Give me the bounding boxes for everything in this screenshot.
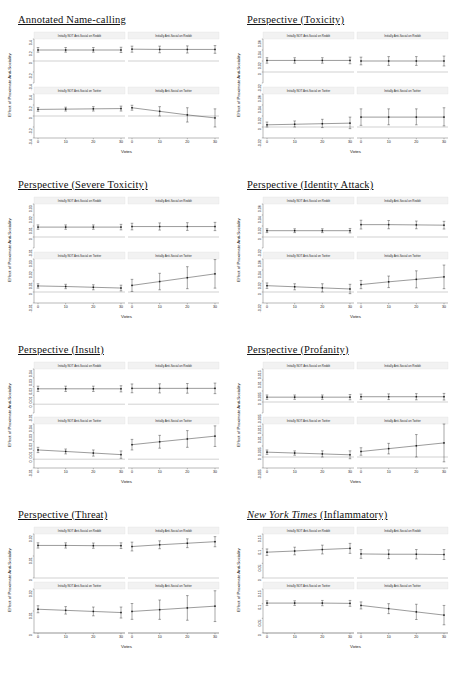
chart-panel: New York Times (Inflammatory)Initially N… [229,509,458,674]
y-axis-label: Effect of Proximate Anti-Sociality [236,383,241,447]
y-axis-label: Effect of Proximate Anti-Sociality [7,53,12,117]
facet-strip-label: Initially Anti-Social on Reddit [155,199,192,203]
x-axis-label: Votes [121,644,133,649]
estimate-point [360,224,362,226]
x-tick-label: 0 [360,140,362,144]
y-tick-label: 0.01 [258,381,262,388]
chart-panel: Perspective (Insult)Initially NOT Anti-S… [0,344,229,509]
estimate-line [361,277,444,285]
facet-strip-label: Initially NOT Anti-Social on Twitter [287,254,330,258]
x-tick-label: 30 [119,140,123,144]
x-tick-label: 30 [442,140,446,144]
chart-panel: Annotated Name-callingInitially NOT Anti… [0,14,229,179]
x-tick-label: 0 [360,305,362,309]
estimate-point [266,230,268,232]
chart-panel: Perspective (Severe Toxicity)Initially N… [0,179,229,344]
facet-strip-label: Initially NOT Anti-Social on Twitter [58,584,101,588]
chart-svg: Initially NOT Anti-Social on Reddit00.05… [233,523,454,651]
x-tick-label: 30 [442,305,446,309]
estimate-point [388,553,390,555]
estimate-point [294,124,296,126]
x-tick-label: 20 [320,140,324,144]
y-tick-label: 0 [29,634,33,636]
estimate-point [131,611,133,613]
estimate-line [267,548,350,552]
x-tick-label: 20 [414,140,418,144]
estimate-point [416,279,418,281]
y-tick-label: 0.01 [258,436,262,443]
estimate-line [38,609,121,612]
x-tick-label: 30 [119,305,123,309]
estimate-point [37,109,39,111]
estimate-point [214,49,216,51]
estimate-point [388,448,390,450]
chart-title: Perspective (Profanity) [247,344,454,355]
facet-strip-label: Initially Anti-Social on Reddit [384,529,421,533]
y-tick-label: 0.04 [258,106,262,113]
chart-svg: Initially NOT Anti-Social on Reddit-0.02… [233,193,454,321]
estimate-point [443,554,445,556]
y-axis-label: Effect of Proximate Anti-Sociality [7,218,12,282]
estimate-point [294,452,296,454]
x-axis-label: Votes [350,149,362,154]
y-axis-label: Effect of Proximate Anti-Sociality [236,218,241,282]
y-tick-label: 0 [258,128,262,130]
estimate-point [349,288,351,290]
y-tick-label: 0.015 [258,370,262,379]
x-tick-label: 20 [91,470,95,474]
estimate-line [267,452,350,455]
estimate-point [159,544,161,546]
facet-strip-label: Initially NOT Anti-Social on Reddit [287,199,331,203]
x-tick-label: 0 [266,635,268,639]
estimate-point [120,226,122,228]
y-tick-label: 0 [258,634,262,636]
estimate-point [443,396,445,398]
chart-svg: Initially NOT Anti-Social on Reddit-0.00… [233,358,454,486]
y-tick-label: 0.04 [258,216,262,223]
x-tick-label: 30 [213,305,217,309]
facet-strip-label: Initially Anti-Social on Twitter [384,89,421,93]
estimate-point [37,388,39,390]
estimate-point [416,396,418,398]
estimate-line [38,286,121,288]
y-tick-label: 0.04 [29,425,33,432]
plot-area: Initially NOT Anti-Social on Reddit-0.4-… [4,28,225,156]
x-tick-label: 30 [213,635,217,639]
y-tick-label: 0 [258,403,262,405]
x-tick-label: 20 [414,305,418,309]
y-tick-label: -0.01 [29,249,33,257]
x-tick-label: 10 [293,470,297,474]
facet-strip-label: Initially Anti-Social on Twitter [155,419,192,423]
estimate-line [361,225,444,226]
estimate-point [214,435,216,437]
estimate-point [159,441,161,443]
estimate-point [266,60,268,62]
estimate-point [159,111,161,113]
chart-title: Perspective (Insult) [18,344,225,355]
x-tick-label: 10 [64,305,68,309]
x-tick-label: 0 [266,305,268,309]
chart-svg: Initially NOT Anti-Social on Reddit00.01… [4,523,225,651]
facet-strip-label: Initially NOT Anti-Social on Twitter [58,254,101,258]
x-tick-label: 0 [131,305,133,309]
estimate-point [131,285,133,287]
estimate-line [361,605,444,615]
y-tick-label: -0.2 [29,128,33,134]
y-tick-label: 0.03 [29,434,33,441]
x-tick-label: 10 [158,470,162,474]
estimate-point [187,277,189,279]
chart-svg: Initially NOT Anti-Social on Reddit-0.01… [4,193,225,321]
estimate-point [37,545,39,547]
figure-root: Annotated Name-callingInitially NOT Anti… [0,0,458,693]
plot-area: Initially NOT Anti-Social on Reddit-0.01… [4,193,225,321]
x-tick-label: 10 [64,470,68,474]
estimate-point [131,226,133,228]
estimate-point [214,605,216,607]
y-tick-label: 0.01 [29,557,33,564]
y-tick-label: -0.02 [258,84,262,92]
y-axis-label: Effect of Proximate Anti-Sociality [7,548,12,612]
y-tick-label: 0.015 [258,425,262,434]
y-tick-label: -0.4 [29,139,33,145]
estimate-point [93,452,95,454]
estimate-point [294,602,296,604]
